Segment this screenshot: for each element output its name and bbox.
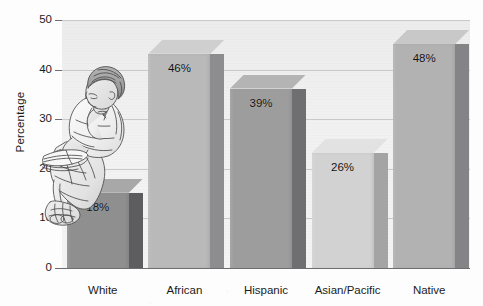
y-axis-tick-label: 20 [22, 163, 52, 174]
y-axis-tick-label: 10 [22, 212, 52, 223]
y-axis-tick-mark [55, 119, 62, 120]
y-axis-tick-label: 0 [22, 262, 52, 273]
bar-front-face [230, 89, 292, 268]
bar-white: 18% [67, 179, 143, 268]
x-axis-label-hispanic: Hispanic [225, 284, 307, 296]
bar-value-label: 48% [393, 52, 455, 64]
bar-african: 46% [148, 40, 224, 268]
chart-screenshot: Percentage 01020304050 18%46%39%26%48% W… [0, 0, 483, 306]
bar-side-face [455, 44, 469, 268]
x-axis-label-african: African [144, 284, 226, 296]
bar-top-face [393, 30, 469, 44]
bar-top-face [230, 75, 306, 89]
x-axis-baseline [62, 268, 470, 269]
y-axis-tick-mark [55, 218, 62, 219]
bar-side-face [292, 89, 306, 268]
bar-side-face [129, 193, 143, 268]
y-axis-tick-mark [55, 20, 62, 21]
bar-value-label: 26% [312, 161, 374, 173]
bar-top-face [148, 40, 224, 54]
bar-native: 48% [393, 30, 469, 268]
x-axis-label-white: White [62, 284, 144, 296]
y-axis-tick-label: 40 [22, 64, 52, 75]
bar-top-face [312, 139, 388, 153]
bar-front-face [148, 54, 210, 268]
gridline [62, 20, 470, 21]
bar-value-label: 18% [67, 201, 129, 213]
bar-side-face [374, 153, 388, 268]
x-axis-label-asian-pacific: Asian/Pacific [307, 284, 389, 296]
y-axis-tick-mark [55, 70, 62, 71]
bar-side-face [210, 54, 224, 268]
bar-front-face [393, 44, 455, 268]
y-axis-tick-label: 30 [22, 113, 52, 124]
y-axis-tick-mark [55, 268, 62, 269]
y-axis-tick-mark [55, 169, 62, 170]
bar-asian-pacific: 26% [312, 139, 388, 268]
bar-value-label: 46% [148, 62, 210, 74]
y-axis-tick-label: 50 [22, 14, 52, 25]
bar-value-label: 39% [230, 97, 292, 109]
bar-hispanic: 39% [230, 75, 306, 268]
bar-top-face [67, 179, 143, 193]
x-axis-label-native: Native [388, 284, 470, 296]
